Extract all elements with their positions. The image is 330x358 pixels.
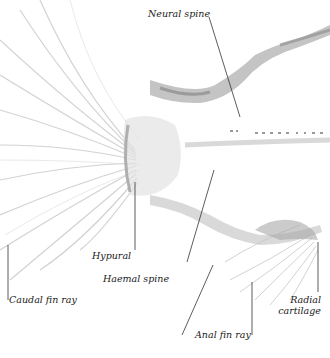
label-anal-fin-ray: Anal fin ray (195, 329, 251, 340)
vertebral-column (230, 130, 323, 134)
label-hypural: Hypural (92, 250, 131, 261)
label-radial-cartilage-line1: Radial (283, 294, 321, 305)
hypural-plate (123, 116, 181, 196)
label-caudal-fin-ray: Caudal fin ray (9, 294, 77, 305)
label-haemal-spine: Haemal spine (103, 273, 169, 284)
label-neural-spine: Neural spine (148, 8, 210, 19)
diagram-canvas: Neural spine Hypural Haemal spine Caudal… (0, 0, 330, 358)
label-radial-cartilage-line2: cartilage (273, 305, 321, 316)
caudal-fin-rays (0, 0, 138, 280)
